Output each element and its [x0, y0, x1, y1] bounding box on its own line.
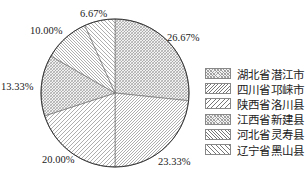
legend-label: 江西省新建县 [237, 111, 304, 127]
legend-swatch-icon [205, 114, 231, 125]
legend-swatch-icon [205, 98, 231, 109]
chart-legend: 湖北省潜江市 四川省邛崃市 陕西省洛川县 江西省新建县 河北省灵寿县 辽宁省黑山… [205, 66, 304, 157]
legend-swatch-icon [205, 68, 231, 79]
legend-swatch-icon [205, 129, 231, 140]
slice-percent-label: 13.33% [1, 81, 34, 92]
legend-label: 河北省灵寿县 [237, 126, 304, 142]
legend-item-xinjian: 江西省新建县 [205, 112, 304, 127]
legend-item-luochuan: 陕西省洛川县 [205, 96, 304, 111]
legend-swatch-icon [205, 83, 231, 94]
legend-swatch-icon [205, 144, 231, 155]
legend-label: 湖北省潜江市 [237, 66, 304, 82]
legend-item-qianjiang: 湖北省潜江市 [205, 66, 304, 81]
legend-item-heishan: 辽宁省黑山县 [205, 142, 304, 157]
legend-label: 陕西省洛川县 [237, 96, 304, 112]
slice-percent-label: 6.67% [80, 8, 107, 19]
legend-label: 辽宁省黑山县 [237, 142, 304, 158]
legend-item-qionglai: 四川省邛崃市 [205, 81, 304, 96]
slice-percent-label: 10.00% [30, 25, 63, 36]
slice-percent-label: 26.67% [167, 32, 200, 43]
legend-item-lingshou: 河北省灵寿县 [205, 127, 304, 142]
slice-percent-label: 23.33% [158, 156, 191, 167]
slice-percent-label: 20.00% [42, 154, 75, 165]
legend-label: 四川省邛崃市 [237, 81, 304, 97]
